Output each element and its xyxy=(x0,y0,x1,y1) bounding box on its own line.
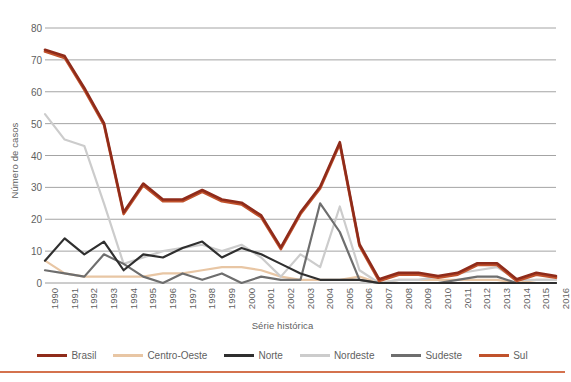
legend-label: Norte xyxy=(258,350,282,361)
legend-swatch xyxy=(113,354,143,357)
x-tick-label: 1992 xyxy=(88,288,99,309)
legend-item[interactable]: Centro-Oeste xyxy=(113,350,207,361)
x-tick-label: 2012 xyxy=(481,288,492,309)
legend-label: Centro-Oeste xyxy=(147,350,207,361)
y-tick-label: 60 xyxy=(12,86,42,97)
x-tick-label: 2014 xyxy=(521,288,532,309)
legend-label: Sudeste xyxy=(425,350,462,361)
series-group xyxy=(45,50,556,283)
x-tick-label: 1997 xyxy=(187,288,198,309)
legend-item[interactable]: Norte xyxy=(224,350,282,361)
x-tick-label: 2003 xyxy=(305,288,316,309)
legend-swatch xyxy=(37,354,67,357)
x-tick-label: 2009 xyxy=(422,288,433,309)
x-tick-label: 1995 xyxy=(147,288,158,309)
x-tick-label: 1993 xyxy=(108,288,119,309)
x-tick-label: 2013 xyxy=(501,288,512,309)
gridlines xyxy=(45,28,556,283)
x-tick-label: 2010 xyxy=(442,288,453,309)
legend-label: Nordeste xyxy=(334,350,375,361)
chart-legend: BrasilCentro-OesteNorteNordesteSudesteSu… xyxy=(0,345,565,365)
legend-label: Brasil xyxy=(71,350,96,361)
legend-item[interactable]: Nordeste xyxy=(300,350,375,361)
legend-swatch xyxy=(479,354,509,357)
y-axis-title: Número de casos xyxy=(9,101,20,221)
legend-swatch xyxy=(224,354,254,357)
x-tick-label: 2002 xyxy=(285,288,296,309)
x-tick-label: 1996 xyxy=(167,288,178,309)
series-line-sul xyxy=(45,52,556,282)
x-tick-label: 1991 xyxy=(69,288,80,309)
legend-item[interactable]: Sul xyxy=(479,350,527,361)
x-tick-label: 2001 xyxy=(265,288,276,309)
series-line-brasil xyxy=(45,50,556,280)
x-tick-label: 2008 xyxy=(403,288,414,309)
y-tick-label: 10 xyxy=(12,246,42,257)
y-tick-label: 0 xyxy=(12,278,42,289)
y-tick-label: 80 xyxy=(12,23,42,34)
legend-swatch xyxy=(391,354,421,357)
legend-swatch xyxy=(300,354,330,357)
x-tick-label: 2011 xyxy=(462,288,473,308)
x-axis-title: Série histórica xyxy=(0,320,565,331)
legend-label: Sul xyxy=(513,350,527,361)
bottom-divider xyxy=(0,371,565,373)
x-tick-label: 2016 xyxy=(560,288,571,309)
x-tick-label: 1990 xyxy=(49,288,60,309)
x-tick-label: 1999 xyxy=(226,288,237,309)
x-tick-label: 2006 xyxy=(363,288,374,309)
x-tick-label: 2005 xyxy=(344,288,355,309)
x-tick-label: 1994 xyxy=(128,288,139,309)
x-tick-label: 2015 xyxy=(540,288,551,309)
y-tick-label: 70 xyxy=(12,54,42,65)
legend-item[interactable]: Brasil xyxy=(37,350,96,361)
x-tick-label: 2004 xyxy=(324,288,335,309)
x-tick-label: 2000 xyxy=(246,288,257,309)
x-tick-label: 2007 xyxy=(383,288,394,309)
legend-item[interactable]: Sudeste xyxy=(391,350,462,361)
x-tick-label: 1998 xyxy=(206,288,217,309)
